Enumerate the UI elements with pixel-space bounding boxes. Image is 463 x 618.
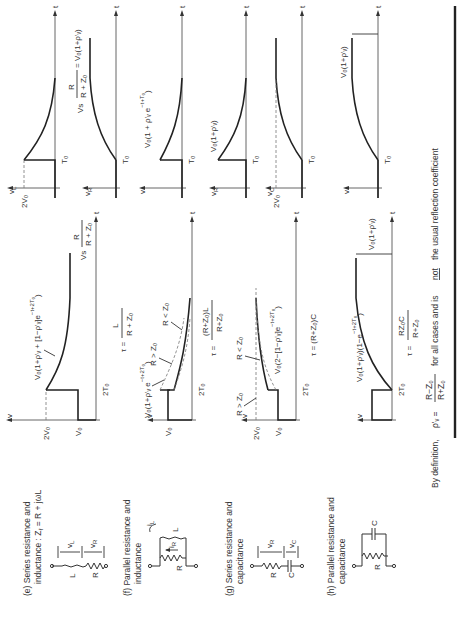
svg-text:t: t <box>92 211 101 214</box>
svg-text:2V₀: 2V₀ <box>20 195 29 208</box>
plot-h-v: v t T₀ V₀(1+ρ'ᵥ) <box>339 5 392 198</box>
svg-text:R: R <box>72 234 81 240</box>
svg-text:R: R <box>269 572 278 578</box>
footer-middle: for all cases and is <box>430 296 440 366</box>
footer-frac-num: R−Z₀ <box>424 380 434 400</box>
caption-g-line2: capacitance <box>235 538 245 584</box>
svg-text:2T₀: 2T₀ <box>397 383 406 396</box>
svg-text:V₀: V₀ <box>274 427 283 436</box>
svg-text:L: L <box>111 323 120 328</box>
caption-f-line1: (f) Parallel resistance and <box>122 499 132 596</box>
svg-text:RZ₀C: RZ₀C <box>397 316 406 336</box>
svg-text:T₀: T₀ <box>383 156 392 164</box>
svg-text:R > Z₀: R > Z₀ <box>235 393 244 416</box>
row-g: (g) Series resistance and capacitance R … <box>209 5 318 596</box>
label-L: L <box>68 573 77 578</box>
svg-text:τ =: τ = <box>119 342 128 352</box>
svg-text:2T₀: 2T₀ <box>101 383 110 396</box>
circuit-e: L R vL vR <box>50 539 107 578</box>
svg-text:V₀: V₀ <box>74 427 83 436</box>
svg-text:v: v <box>342 190 351 194</box>
svg-text:C: C <box>370 520 379 526</box>
svg-text:2T₀: 2T₀ <box>197 383 206 396</box>
curve-label-f: V₀(1+ρ'ᵥ e−t+2T₀) <box>139 361 152 418</box>
label-vR: vR <box>88 539 98 548</box>
svg-text:T₀: T₀ <box>307 156 316 164</box>
svg-text:V₀(1+ρ'ᵥ): V₀(1+ρ'ᵥ) <box>339 46 348 78</box>
svg-text:t: t <box>292 211 301 214</box>
footer-suffix: the usual reflection coefficient <box>430 148 440 260</box>
svg-text:R + Z₀: R + Z₀ <box>84 223 93 246</box>
curve-label-h: V₀(1+ρ'ᵥ)(1−e−t+2T₀) <box>351 313 364 382</box>
svg-text:L: L <box>171 527 180 532</box>
svg-text:2V₀: 2V₀ <box>42 427 51 440</box>
svg-text:R: R <box>175 565 184 571</box>
svg-text:V₀(1+ρ'ᵥ): V₀(1+ρ'ᵥ) <box>209 120 218 152</box>
curve-label-g: V₀(2−[1−ρ'ᵥ]e−t+2T₀) <box>269 306 282 374</box>
svg-text:t: t <box>298 5 307 8</box>
svg-text:R < Z₀: R < Z₀ <box>161 303 170 326</box>
svg-text:τ = (R+Z₀)C: τ = (R+Z₀)C <box>309 314 318 356</box>
footer-frac-den: R+Z₀ <box>436 380 446 400</box>
label-vL: vL <box>65 540 75 548</box>
svg-text:vL: vL <box>7 186 17 194</box>
circuit-f: R L iR iL <box>145 520 198 571</box>
circuit-h: R C <box>352 520 395 570</box>
svg-text:t: t <box>178 5 187 8</box>
svg-text:t: t <box>112 5 121 8</box>
figure-page: (e) Series resistance and inductance : Z… <box>0 0 463 618</box>
plot-g-vR: vR t T₀ V₀(1+ρ'ᵥ) <box>209 5 260 198</box>
svg-text:2T₀: 2T₀ <box>301 383 310 396</box>
svg-text:t: t <box>188 211 197 214</box>
resistor-icon <box>86 563 105 569</box>
svg-text:T₀: T₀ <box>60 156 69 164</box>
circuit-response-figure: (e) Series resistance and inductance : Z… <box>0 0 463 618</box>
resistor-icon <box>262 563 281 569</box>
svg-text:T₀: T₀ <box>121 156 130 164</box>
svg-text:T₀: T₀ <box>251 156 260 164</box>
resistor-icon <box>362 553 388 559</box>
svg-text:τ =: τ = <box>209 346 218 356</box>
caption-h-line1: (h) Parallel resistance and <box>326 497 336 596</box>
curve-label-f2: V₀(1 + ρ'ᵥ e−t+T₀) <box>139 90 152 148</box>
circuit-g: R C vR vC <box>250 539 303 578</box>
svg-text:t: t <box>242 5 251 8</box>
svg-text:Vs: Vs <box>76 104 85 113</box>
svg-text:R: R <box>373 564 382 570</box>
resistor-icon <box>160 555 186 561</box>
footer-symbol: ρ'ᵥ = <box>430 411 440 428</box>
svg-text:t: t <box>388 211 397 214</box>
svg-text:R + Z₀: R + Z₀ <box>79 75 88 98</box>
svg-text:R < Z₀: R < Z₀ <box>235 337 244 360</box>
inductor-icon <box>160 537 186 539</box>
svg-text:R > Z₀: R > Z₀ <box>149 343 158 366</box>
svg-text:vR: vR <box>265 539 275 548</box>
plot-f-v: v t T₀ V₀(1 + ρ'ᵥ e−t+T₀) <box>138 5 196 198</box>
svg-text:iR: iR <box>167 541 177 548</box>
caption-f-line2: inductance <box>133 543 143 584</box>
footer-prefix: By definition, <box>430 439 440 488</box>
svg-text:= V₀(1+ρ'ᵥ): = V₀(1+ρ'ᵥ) <box>73 29 82 68</box>
svg-text:V₀(1+ρ'ᵥ): V₀(1+ρ'ᵥ) <box>367 218 376 250</box>
svg-text:V₀: V₀ <box>164 427 173 436</box>
svg-text:v: v <box>138 190 147 194</box>
plot-e-vL: vL t 2V₀ T₀ <box>7 5 69 208</box>
svg-text:t: t <box>51 5 60 8</box>
plot-e-source: v t 2V₀ V₀ 2T₀ V₀(1+ρ'ᵥ + [1−ρ'ᵥ]e−t+2T₀… <box>5 211 134 440</box>
svg-text:C: C <box>287 572 296 578</box>
svg-text:v: v <box>355 414 364 418</box>
svg-text:2V₀: 2V₀ <box>252 427 261 440</box>
curve-label-e: V₀(1+ρ'ᵥ + [1−ρ'ᵥ]e−t+2T₀) <box>29 294 42 380</box>
svg-text:iL: iL <box>145 520 155 526</box>
svg-text:R+Z₀: R+Z₀ <box>215 313 224 332</box>
svg-text:t: t <box>374 5 383 8</box>
svg-text:T₀: T₀ <box>187 156 196 164</box>
svg-text:R + Z₀: R + Z₀ <box>125 313 134 336</box>
plot-g-source: v t 2V₀ V₀ 2T₀ R > Z₀ R < Z₀ V₀(2−[1−ρ'ᵥ… <box>235 211 318 440</box>
footer-definition: By definition, ρ'ᵥ = R−Z₀ R+Z₀ for all c… <box>424 148 446 488</box>
svg-text:2V₀: 2V₀ <box>272 195 281 208</box>
row-e: (e) Series resistance and inductance : Z… <box>5 5 134 596</box>
inductor-icon <box>62 565 86 567</box>
svg-text:vC: vC <box>287 539 297 548</box>
svg-text:τ =: τ = <box>405 346 414 356</box>
